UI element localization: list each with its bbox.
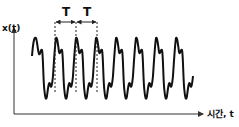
- signal-waveform: [32, 38, 193, 99]
- periodic-signal-diagram: T T x(t) 시간, t: [0, 0, 239, 127]
- x-axis-label: 시간, t: [207, 108, 235, 119]
- period-label-1: T: [62, 5, 71, 19]
- y-axis-label: x(t): [2, 23, 20, 33]
- period-label-2: T: [83, 5, 92, 19]
